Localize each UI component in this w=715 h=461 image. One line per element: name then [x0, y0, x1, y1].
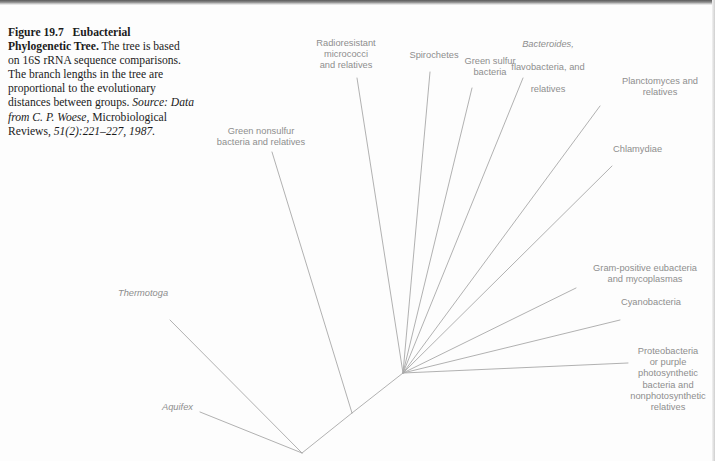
leaf-label-spirochetes: Spirochetes — [405, 50, 463, 61]
leaf-label-bacteroides-rest2: relatives — [531, 84, 566, 94]
leaf-label-thermotoga: Thermotoga — [118, 288, 168, 299]
branch-planctomyces — [403, 106, 600, 373]
leaf-label-aquifex: Aquifex — [162, 402, 193, 413]
leaf-label-green-nonsulfur: Green nonsulfur bacteria and relatives — [198, 126, 324, 148]
leaf-label-bacteroides: Bacteroides, flavobacteria, and relative… — [490, 28, 606, 95]
leaf-label-cyanobacteria: Cyanobacteria — [621, 297, 713, 308]
branch-green-nonsulfur — [272, 152, 352, 413]
branch-radioresistant — [357, 78, 403, 373]
branch-bacteroides — [403, 78, 523, 373]
figure-page: Figure 19.7 Eubacterial Phylogenetic Tre… — [0, 0, 715, 461]
leaf-label-radioresistant: Radioresistant micrococci and relatives — [305, 38, 387, 72]
branch-gram-positive — [403, 288, 576, 373]
leaf-label-planctomyces: Planctomyces and relatives — [608, 76, 712, 98]
leaf-label-gram-positive: Gram-positive eubacteria and mycoplasmas — [578, 263, 712, 285]
leaf-label-bacteroides-genus: Bacteroides, — [522, 39, 574, 49]
branch-thermotoga — [170, 320, 302, 453]
branch-mid-to-radiation — [352, 373, 403, 413]
leaf-label-chlamydiae: Chlamydiae — [613, 144, 703, 155]
branch-spirochetes — [403, 72, 430, 373]
leaf-label-bacteroides-rest: flavobacteria, and — [511, 62, 584, 72]
branch-green-sulfur — [403, 88, 472, 373]
leaf-label-proteobacteria: Proteobacteria or purple photosynthetic … — [622, 346, 714, 413]
branch-base-to-mid — [302, 413, 352, 453]
branch-aquifex — [200, 412, 302, 453]
